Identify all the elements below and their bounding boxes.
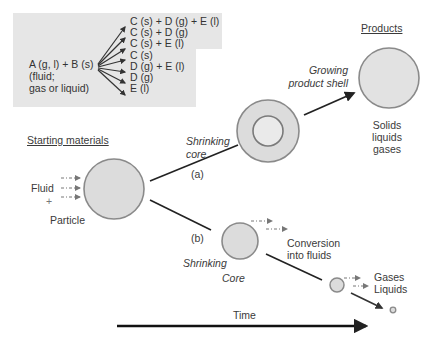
reactant-line: gas or liquid) [29, 82, 93, 94]
tiny-core-circle [390, 307, 396, 313]
shell-core-circle [253, 116, 283, 146]
gases-liquids-arrows [344, 278, 368, 286]
to-products-arrow [304, 93, 354, 115]
particle-label: Particle [50, 214, 85, 227]
growing-shell-label-1: Growing [288, 64, 348, 77]
particle-circle [84, 159, 144, 219]
small-core-circle [330, 278, 344, 292]
reactant-line: A (g, l) + B (s) [29, 58, 93, 70]
product-option: E (l) [130, 83, 219, 94]
starting-materials-heading: Starting materials [27, 134, 109, 147]
path-b-line [150, 200, 211, 230]
products-heading: Products [361, 22, 402, 35]
reactant-line: (fluid; [29, 70, 93, 82]
product-circle [359, 48, 419, 108]
liquids-label: Liquids [374, 283, 407, 296]
shrinking-core-a-label-1: Shrinking [186, 135, 230, 148]
shrinking-core-b-label-2: Core [222, 272, 245, 285]
time-label: Time [233, 309, 256, 322]
products-list: C (s) + D (g) + E (l) C (s) + D (g) C (s… [130, 16, 219, 94]
product-option: C (s) + E (l) [130, 38, 219, 49]
products-gases: gases [362, 143, 412, 156]
growing-shell-label-2: product shell [268, 77, 348, 90]
conversion-fluid-arrows [251, 221, 287, 229]
shrinking-core-a-label-2: core [186, 148, 206, 161]
reactants-text: A (g, l) + B (s) (fluid; gas or liquid) [29, 58, 93, 94]
shrinking-core-circle [222, 223, 258, 259]
fluid-arrows [61, 178, 80, 197]
fluid-label: Fluid [31, 182, 54, 195]
path-a-label: (a) [191, 168, 204, 181]
plus-sign: + [46, 195, 52, 208]
conversion-label-2: into fluids [287, 249, 331, 262]
shrinking-core-b-label-1: Shrinking [183, 257, 227, 270]
path-b-label: (b) [191, 232, 204, 245]
